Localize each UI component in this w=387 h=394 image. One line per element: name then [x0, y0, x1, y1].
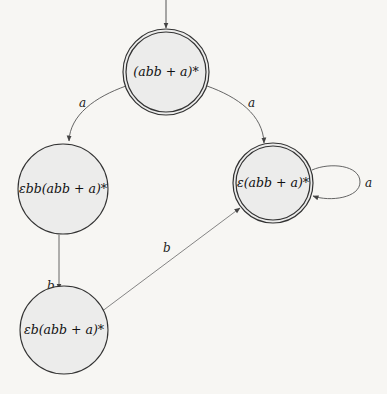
edge-label-n0-n2: a: [248, 96, 255, 110]
state-n1: εbb(abb + a)*: [18, 144, 108, 234]
automaton-diagram: a a b b a (abb + a)* εbb(abb + a)* ε(abb…: [0, 0, 387, 394]
edge-n0-n1: [69, 86, 126, 141]
edge-n3-n2: [93, 208, 240, 318]
state-label-n1: εbb(abb + a)*: [19, 181, 108, 196]
state-label-n0: (abb + a)*: [133, 64, 199, 79]
edge-label-self-loop: a: [365, 176, 372, 190]
state-n2: ε(abb + a)*: [233, 143, 313, 223]
state-n3: εb(abb + a)*: [20, 286, 108, 374]
state-label-n2: ε(abb + a)*: [237, 175, 310, 190]
edge-label-n3-n2: b: [163, 241, 171, 255]
edge-label-n0-n1: a: [79, 96, 86, 110]
state-n0: (abb + a)*: [123, 29, 209, 115]
edge-n2-self-loop: [312, 166, 360, 199]
state-label-n3: εb(abb + a)*: [24, 322, 105, 337]
edge-n0-n2: [207, 86, 264, 143]
